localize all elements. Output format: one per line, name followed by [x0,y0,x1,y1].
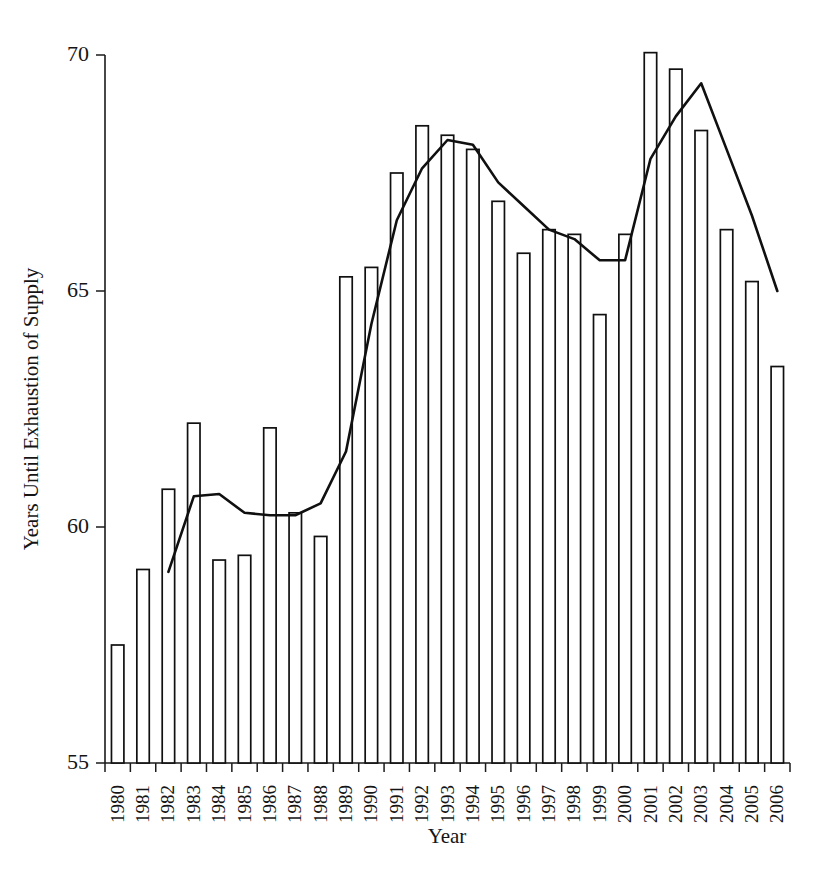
x-tick-label-1984: 1984 [208,785,229,824]
x-tick-label-2004: 2004 [716,785,737,824]
bar-1988 [314,536,326,763]
x-tick-label-2003: 2003 [690,785,711,823]
y-tick-label-55: 55 [67,749,89,774]
x-axis-title: Year [428,824,467,848]
bar-1992 [416,126,428,763]
bar-1982 [162,489,174,763]
bar-1996 [517,253,529,763]
y-tick-label-60: 60 [67,513,89,538]
x-tick-label-1982: 1982 [157,785,178,823]
bar-1997 [543,230,555,763]
bar-1998 [568,234,580,763]
y-axis: 55606570 [67,41,105,774]
x-tick-label-1990: 1990 [360,785,381,823]
x-tick-label-1996: 1996 [513,785,534,823]
x-tick-label-1991: 1991 [386,785,407,823]
x-tick-label-1986: 1986 [259,785,280,823]
bar-1989 [340,277,352,763]
bar-1991 [391,173,403,763]
bar-1981 [137,569,149,763]
bar-1983 [188,423,200,763]
bar-2005 [746,282,758,763]
x-tick-label-2000: 2000 [614,785,635,823]
bar-1994 [467,149,479,763]
x-axis [105,763,790,772]
x-tick-label-1981: 1981 [132,785,153,823]
bar-series [111,53,783,763]
bar-1984 [213,560,225,763]
bar-1995 [492,201,504,763]
x-tick-label-1988: 1988 [310,785,331,823]
bar-2002 [670,69,682,763]
bar-1999 [594,315,606,763]
x-tick-label-1993: 1993 [437,785,458,823]
bar-2006 [771,367,783,763]
x-tick-label-1995: 1995 [487,785,508,823]
x-tick-label-1987: 1987 [284,785,305,823]
bar-1985 [238,555,250,763]
bar-1986 [264,428,276,763]
bar-2000 [619,234,631,763]
x-tick-label-group: 1980198119821983198419851986198719881989… [107,785,788,824]
bar-2004 [720,230,732,763]
x-tick-label-2001: 2001 [640,785,661,823]
chart-figure: 55606570 1980198119821983198419851986198… [0,0,826,879]
bar-1987 [289,513,301,763]
x-tick-label-1999: 1999 [589,785,610,823]
x-tick-label-1985: 1985 [234,785,255,823]
x-tick-label-1998: 1998 [563,785,584,823]
bar-1993 [441,135,453,763]
x-tick-label-1994: 1994 [462,785,483,824]
years-until-exhaustion-bar-chart: 55606570 1980198119821983198419851986198… [0,0,826,879]
bar-1980 [111,645,123,763]
x-tick-label-2005: 2005 [741,785,762,823]
x-tick-label-1997: 1997 [538,785,559,823]
x-tick-label-1992: 1992 [411,785,432,823]
y-tick-label-70: 70 [67,41,89,66]
x-tick-label-2002: 2002 [665,785,686,823]
x-tick-label-1980: 1980 [107,785,128,823]
x-tick-label-1983: 1983 [183,785,204,823]
x-tick-group [105,763,790,772]
x-tick-label-2006: 2006 [766,785,787,823]
y-axis-title: Years Until Exhaustion of Supply [19,267,43,550]
y-tick-label-65: 65 [67,277,89,302]
x-tick-label-1989: 1989 [335,785,356,823]
bar-2003 [695,131,707,763]
y-tick-group: 55606570 [67,41,105,774]
